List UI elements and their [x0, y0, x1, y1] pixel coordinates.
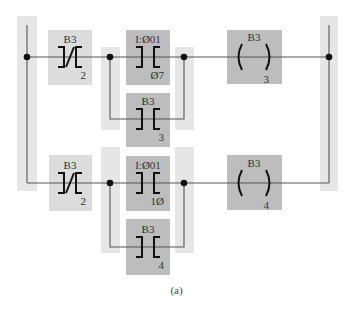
node-branch-end-rung1: [181, 54, 188, 61]
node-left-rung1: [24, 54, 31, 61]
rung2-branch-contact-b-address: B3: [142, 223, 155, 235]
rung1-output-coil-bit: 3: [264, 73, 270, 85]
rung1-output-coil-address: B3: [248, 31, 261, 43]
rung2-output-coil-bit: 4: [264, 199, 270, 211]
figure-caption: (a): [0, 284, 353, 296]
node-branch-start-rung1: [107, 54, 114, 61]
rung1-branch-contact-a-address: I:Ø01: [135, 33, 161, 45]
rung1-xio-contact-bit: 2: [81, 69, 87, 81]
ladder-diagram: B32I:Ø01Ø7B33B33B32I:Ø011ØB34B34: [0, 0, 353, 309]
rung2-branch-contact-a-bit: 1Ø: [151, 195, 165, 207]
rung1-branch-contact-b-address: B3: [142, 95, 155, 107]
rung2-branch-contact-b-bit: 4: [159, 259, 165, 271]
rung2-xio-contact-address: B3: [64, 159, 77, 171]
node-right-rung1: [326, 54, 333, 61]
node-branch-end-rung2: [181, 180, 188, 187]
rung1-branch-contact-a-bit: Ø7: [151, 69, 165, 81]
rung2-output-coil-address: B3: [248, 157, 261, 169]
rung2-xio-contact-bit: 2: [81, 195, 87, 207]
rung2-branch-contact-a-address: I:Ø01: [135, 159, 161, 171]
rung1-xio-contact-address: B3: [64, 33, 77, 45]
node-branch-start-rung2: [107, 180, 114, 187]
rung1-branch-contact-b-bit: 3: [159, 131, 165, 143]
